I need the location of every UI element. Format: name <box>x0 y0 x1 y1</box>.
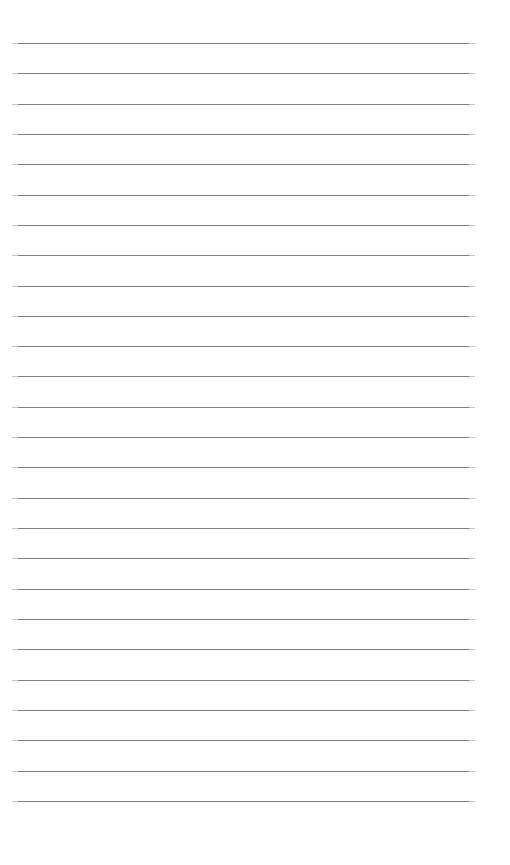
rule-line <box>12 316 475 317</box>
rule-line <box>12 498 475 499</box>
rule-line <box>12 255 475 256</box>
rule-line <box>12 740 475 741</box>
rule-line <box>12 558 475 559</box>
rule-line <box>12 104 475 105</box>
rule-line <box>12 164 475 165</box>
rule-line <box>12 73 475 74</box>
rule-line <box>12 134 475 135</box>
rule-line <box>12 195 475 196</box>
rule-line <box>12 376 475 377</box>
rule-line <box>12 589 475 590</box>
rule-line <box>12 286 475 287</box>
rule-line <box>12 680 475 681</box>
rule-line <box>12 437 475 438</box>
rule-line <box>12 801 475 802</box>
ruled-writing-area[interactable] <box>0 0 510 865</box>
rule-line <box>12 710 475 711</box>
rule-line <box>12 528 475 529</box>
rule-line <box>12 43 475 44</box>
rule-line <box>12 346 475 347</box>
rule-line <box>12 225 475 226</box>
rule-line <box>12 407 475 408</box>
rule-line <box>12 649 475 650</box>
rule-line <box>12 619 475 620</box>
rule-line <box>12 467 475 468</box>
rule-line <box>12 771 475 772</box>
ruled-paper-page <box>0 0 510 865</box>
